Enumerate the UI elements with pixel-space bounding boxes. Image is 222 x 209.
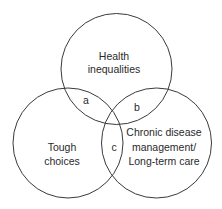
venn-diagram: Health inequalities Tough choices Chroni…	[0, 0, 222, 209]
label-chronic-line2: management/	[132, 141, 196, 153]
label-tough-line1: Tough	[48, 141, 77, 153]
label-health-line1: Health	[99, 50, 130, 62]
intersection-b: b	[134, 101, 140, 113]
label-chronic-line1: Chronic disease	[126, 126, 201, 138]
label-chronic-line3: Long-term care	[128, 155, 199, 167]
intersection-a: a	[83, 94, 89, 106]
label-health-line2: inequalities	[88, 63, 141, 75]
intersection-c: c	[111, 141, 116, 153]
label-tough-line2: choices	[44, 155, 80, 167]
